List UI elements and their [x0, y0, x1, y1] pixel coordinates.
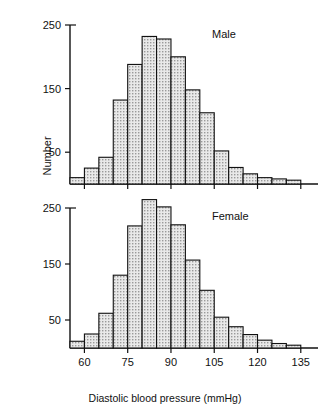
- histogram-bar: [142, 36, 156, 184]
- histogram-bar: [185, 260, 199, 348]
- histogram-bar: [272, 344, 286, 348]
- histogram-figure: Number Male Female Diastolic blood press…: [0, 0, 330, 418]
- histogram-bar: [229, 327, 243, 348]
- histogram-bar: [157, 39, 171, 184]
- histogram-bar: [243, 335, 257, 348]
- histogram-bar: [84, 168, 98, 184]
- panel-male: 50150250: [43, 19, 318, 189]
- x-tick-label: 90: [165, 356, 177, 368]
- histogram-bar: [229, 167, 243, 184]
- histogram-bar: [84, 334, 98, 348]
- histogram-bar: [128, 64, 142, 184]
- histogram-bar: [171, 225, 185, 348]
- histogram-bar: [243, 174, 257, 184]
- panel-female: 50150250607590105120135: [43, 200, 318, 368]
- histogram-bar: [142, 200, 156, 348]
- panel-label-male: Male: [212, 28, 236, 40]
- histogram-bar: [258, 178, 272, 184]
- histogram-bar: [99, 157, 113, 184]
- histogram-bar: [128, 226, 142, 348]
- x-tick-label: 75: [122, 356, 134, 368]
- x-tick-label: 60: [78, 356, 90, 368]
- histogram-bar: [214, 151, 228, 184]
- y-axis-title: Number: [41, 111, 53, 201]
- histogram-bar: [286, 345, 300, 348]
- y-tick-label: 50: [49, 314, 61, 326]
- histogram-bar: [171, 57, 185, 184]
- histogram-svg: 50150250 50150250607590105120135: [0, 0, 330, 418]
- histogram-bar: [113, 275, 127, 348]
- x-axis-title: Diastolic blood pressure (mmHg): [0, 392, 330, 404]
- y-tick-label: 250: [43, 202, 61, 214]
- y-tick-label: 150: [43, 258, 61, 270]
- histogram-bar: [185, 90, 199, 184]
- histogram-bar: [258, 340, 272, 348]
- x-tick-label: 105: [205, 356, 223, 368]
- histogram-bar: [99, 313, 113, 348]
- histogram-bar: [272, 179, 286, 184]
- histogram-bar: [200, 113, 214, 184]
- panel-label-female: Female: [212, 210, 249, 222]
- y-tick-label: 150: [43, 83, 61, 95]
- histogram-bar: [157, 207, 171, 348]
- histogram-bar: [113, 100, 127, 184]
- x-tick-label: 135: [292, 356, 310, 368]
- histogram-bar: [286, 180, 300, 184]
- y-tick-label: 250: [43, 19, 61, 31]
- histogram-bar: [70, 341, 84, 348]
- histogram-bar: [214, 317, 228, 348]
- histogram-bar: [70, 178, 84, 184]
- x-tick-label: 120: [248, 356, 266, 368]
- histogram-bar: [200, 290, 214, 348]
